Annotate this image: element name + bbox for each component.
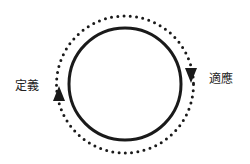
label-adapt: 適應 [209,72,233,86]
arrow-down-icon [185,68,197,83]
label-define: 定義 [15,79,39,93]
outer-dotted-circle [57,16,194,153]
inner-solid-circle [69,28,181,140]
arrow-up-icon [53,86,65,101]
